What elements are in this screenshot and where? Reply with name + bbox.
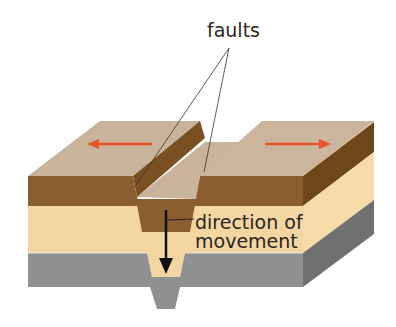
faults-label: faults (207, 19, 260, 41)
gray-keel (150, 287, 180, 309)
front-brown-left (28, 176, 140, 206)
rift-valley-diagram: faults direction of movement (0, 0, 396, 327)
direction-label-line2: movement (195, 230, 298, 252)
front-brown-right (192, 176, 303, 206)
